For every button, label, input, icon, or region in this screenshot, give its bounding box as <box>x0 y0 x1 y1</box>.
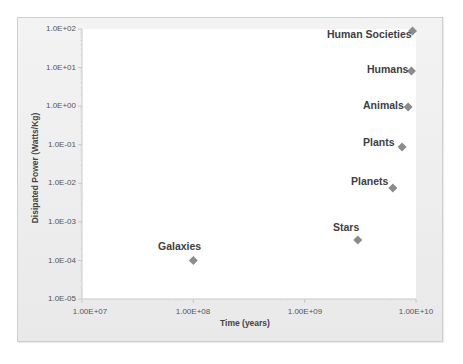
x-tick-label: 1.00E+09 <box>275 307 335 316</box>
point-label-human-societies: Human Societies <box>327 28 412 40</box>
x-tick-label: 1.00E+08 <box>163 307 223 316</box>
y-tick-label: 1.0E-03 <box>16 217 76 226</box>
diamond-marker-icon <box>404 103 413 112</box>
axes <box>78 29 416 303</box>
point-label-stars: Stars <box>333 221 359 233</box>
diamond-marker-icon <box>353 235 362 244</box>
point-label-animals: Animals <box>363 99 404 111</box>
x-tick-label: 1.00E+10 <box>386 307 446 316</box>
y-tick-label: 1.0E-01 <box>16 140 76 149</box>
y-tick-label: 1.0E-04 <box>16 256 76 265</box>
diamond-marker-icon <box>388 183 397 192</box>
x-tick-label: 1.00E+07 <box>60 307 120 316</box>
y-tick-label: 1.0E+01 <box>16 63 76 72</box>
x-axis-title: Time (years) <box>220 318 270 328</box>
y-tick-label: 1.0E+00 <box>16 101 76 110</box>
diamond-marker-icon <box>398 143 407 152</box>
y-tick-label: 1.0E-05 <box>16 294 76 303</box>
diamond-marker-icon <box>189 256 198 265</box>
y-axis-title: Disipated Power (Watts/Kg) <box>30 113 40 224</box>
y-tick-label: 1.0E+02 <box>16 24 76 33</box>
point-label-plants: Plants <box>363 136 395 148</box>
point-label-humans: Humans <box>367 63 408 75</box>
point-label-planets: Planets <box>351 175 388 187</box>
y-tick-label: 1.0E-02 <box>16 178 76 187</box>
point-label-galaxies: Galaxies <box>158 240 201 252</box>
